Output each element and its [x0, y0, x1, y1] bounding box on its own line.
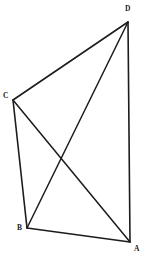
edge-BC — [13, 100, 27, 228]
vertex-label-C: C — [3, 92, 8, 100]
vertex-label-A: A — [134, 245, 139, 253]
diagonal-DB — [27, 22, 128, 228]
figure-svg — [0, 0, 150, 265]
edge-DA — [128, 22, 130, 242]
vertex-label-D: D — [125, 5, 130, 13]
edge-AB — [27, 228, 130, 242]
geometry-figure: A B C D — [0, 0, 150, 265]
vertex-label-B: B — [17, 224, 22, 232]
edge-CD — [13, 22, 128, 100]
